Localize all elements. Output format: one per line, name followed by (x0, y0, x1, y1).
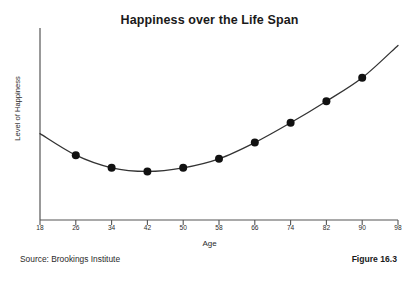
figure-number: Figure 16.3 (352, 254, 397, 264)
x-axis-tick-label: 18 (28, 224, 52, 231)
y-axis-label: Level of Happiness (13, 59, 22, 159)
x-axis-tick-label: 34 (100, 224, 124, 231)
x-axis-tick-label: 82 (314, 224, 338, 231)
data-point-marker (251, 139, 259, 147)
figure-container: Happiness over the Life Span 18263442505… (0, 0, 419, 282)
data-point-markers (72, 74, 366, 176)
data-point-marker (179, 164, 187, 172)
data-point-marker (108, 164, 116, 172)
x-axis-tick-label: 98 (386, 224, 410, 231)
x-axis-tick-label: 50 (171, 224, 195, 231)
x-axis-label: Age (0, 239, 419, 248)
x-axis-tick-label: 42 (135, 224, 159, 231)
data-point-marker (287, 119, 295, 127)
x-axis-tick-label: 90 (350, 224, 374, 231)
x-axis-tick-label: 58 (207, 224, 231, 231)
x-axis-tick-label: 74 (279, 224, 303, 231)
data-point-marker (72, 151, 80, 159)
data-point-marker (322, 97, 330, 105)
source-note: Source: Brookings Institute (20, 254, 120, 264)
happiness-curve-line (40, 45, 398, 171)
data-point-marker (358, 74, 366, 82)
data-point-marker (143, 167, 151, 175)
x-axis-tick-label: 66 (243, 224, 267, 231)
data-point-marker (215, 155, 223, 163)
x-axis-tick-label: 26 (64, 224, 88, 231)
